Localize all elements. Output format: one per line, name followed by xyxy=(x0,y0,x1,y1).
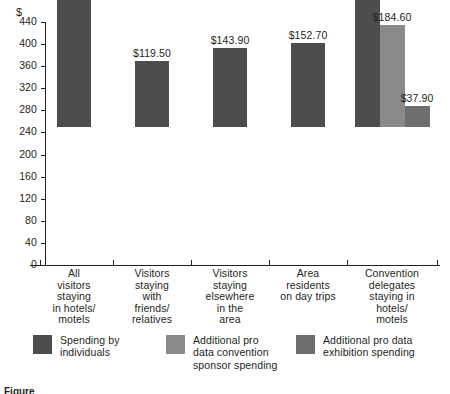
category-label-line: All xyxy=(37,268,111,280)
legend-label: Spending byindividuals xyxy=(60,334,119,359)
y-tick-mark xyxy=(41,66,46,67)
y-tick-label: 240 xyxy=(19,125,37,137)
category-label-line: relatives xyxy=(116,314,188,326)
bar-value-label: $119.50 xyxy=(133,47,171,59)
y-tick-mark xyxy=(41,243,46,244)
y-tick-label: 400 xyxy=(19,37,37,49)
figure-caption: Figure xyxy=(4,386,35,394)
x-axis-line xyxy=(30,265,440,266)
legend-label-line: exhibition spending xyxy=(323,346,415,358)
bar-rect xyxy=(57,0,91,127)
bar-value-label: $37.90 xyxy=(401,92,434,104)
y-tick-mark xyxy=(41,110,46,111)
legend-label-line: sponsor spending xyxy=(193,359,278,371)
y-tick-label: 320 xyxy=(19,81,37,93)
y-axis-line xyxy=(45,22,46,266)
category-label-line: Visitors xyxy=(194,268,266,280)
bar-rect xyxy=(380,25,405,127)
y-tick-mark xyxy=(41,199,46,200)
x-tick-mark xyxy=(191,260,192,266)
bar-rect xyxy=(291,43,325,127)
y-tick-mark xyxy=(41,265,46,266)
category-label-line: Area xyxy=(268,268,348,280)
y-tick-label: 40 xyxy=(25,236,37,248)
x-tick-mark xyxy=(113,260,114,266)
category-label: Visitorsstayingwithfriends/relatives xyxy=(116,268,188,326)
y-tick-label: 120 xyxy=(19,192,37,204)
category-label-line: area xyxy=(194,314,266,326)
legend-item[interactable]: Additional prodata conventionsponsor spe… xyxy=(166,334,278,371)
legend-label: Additional prodata conventionsponsor spe… xyxy=(193,334,278,371)
legend-swatch xyxy=(166,335,185,354)
y-tick-label: 360 xyxy=(19,59,37,71)
y-tick-mark xyxy=(41,177,46,178)
x-tick-mark xyxy=(347,260,348,266)
y-tick-mark xyxy=(41,221,46,222)
x-tick-mark xyxy=(40,260,41,266)
y-tick-mark xyxy=(41,88,46,89)
category-label-line: motels xyxy=(37,314,111,326)
category-label: Visitorsstayingelsewherein thearea xyxy=(194,268,266,326)
bar-rect xyxy=(405,106,430,127)
legend-label-line: Additional pro data xyxy=(323,334,415,346)
y-tick-mark xyxy=(41,22,46,23)
x-tick-mark xyxy=(269,260,270,266)
bar-value-label: $152.70 xyxy=(289,29,328,41)
category-label-line: Convention xyxy=(353,268,431,280)
category-label: Conventiondelegatesstaying inhotels/mote… xyxy=(353,268,431,326)
y-tick-label: 440 xyxy=(19,15,37,27)
legend-item[interactable]: Additional pro dataexhibition spending xyxy=(296,334,415,359)
y-tick-label: 280 xyxy=(19,103,37,115)
legend-label-line: individuals xyxy=(60,346,119,358)
y-tick-label: 200 xyxy=(19,148,37,160)
legend-swatch xyxy=(33,335,52,354)
legend-swatch xyxy=(296,335,315,354)
y-tick-mark xyxy=(41,132,46,133)
legend-item[interactable]: Spending byindividuals xyxy=(33,334,119,359)
legend-label-line: Spending by xyxy=(60,334,119,346)
category-label-line: Visitors xyxy=(116,268,188,280)
category-label-line: on day trips xyxy=(268,291,348,303)
y-tick-mark xyxy=(41,44,46,45)
category-label-line: motels xyxy=(353,314,431,326)
y-tick-label: 80 xyxy=(25,214,37,226)
x-tick-mark xyxy=(437,260,438,266)
bar-value-label: $184.60 xyxy=(373,11,412,23)
bar-rect xyxy=(213,48,247,127)
category-label: Arearesidentson day trips xyxy=(268,268,348,303)
legend-label-line: data convention xyxy=(193,346,278,358)
category-label: Allvisitorsstayingin hotels/motels xyxy=(37,268,111,326)
bar-value-label: $143.90 xyxy=(211,34,250,46)
y-tick-mark xyxy=(41,155,46,156)
y-tick-label: 160 xyxy=(19,170,37,182)
legend-label-line: Additional pro xyxy=(193,334,278,346)
legend-label: Additional pro dataexhibition spending xyxy=(323,334,415,359)
chart-legend: Spending byindividualsAdditional prodata… xyxy=(0,334,450,384)
bar-rect xyxy=(135,61,169,127)
